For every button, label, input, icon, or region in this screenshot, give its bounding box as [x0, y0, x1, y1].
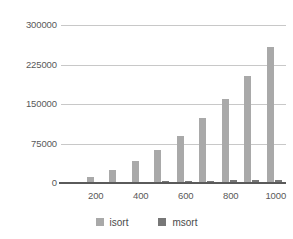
- bar-isort: [132, 161, 139, 183]
- y-axis-tick-label: 300000: [0, 20, 57, 30]
- plot-area: [61, 25, 286, 183]
- legend-swatch-icon: [158, 218, 166, 226]
- x-axis-tick-label: 200: [88, 190, 104, 202]
- bar-group: [132, 25, 152, 183]
- bar-group: [222, 25, 242, 183]
- legend-item-isort[interactable]: isort: [96, 217, 129, 228]
- legend-label: msort: [172, 217, 197, 228]
- bar-group: [267, 25, 287, 183]
- x-axis-line: [59, 182, 286, 184]
- bar-group: [109, 25, 129, 183]
- bar-group: [177, 25, 197, 183]
- bar-group: [154, 25, 174, 183]
- bar-chart: 300000225000150000750000 200400600800100…: [0, 0, 293, 239]
- bar-isort: [244, 76, 251, 183]
- y-axis-tick-label: 225000: [0, 60, 57, 70]
- x-axis-tick-label: 1000: [265, 190, 286, 202]
- bar-isort: [199, 118, 206, 183]
- legend-swatch-icon: [96, 218, 104, 226]
- y-axis-tick-label: 0: [0, 178, 57, 188]
- y-axis-tick-label: 150000: [0, 99, 57, 109]
- legend-item-msort[interactable]: msort: [158, 217, 197, 228]
- bar-group: [244, 25, 264, 183]
- x-axis-tick-label: 400: [133, 190, 149, 202]
- bar-group: [64, 25, 84, 183]
- y-axis-tick-label: 75000: [0, 139, 57, 149]
- bar-group: [199, 25, 219, 183]
- x-axis-tick-label: 600: [178, 190, 194, 202]
- bar-isort: [154, 150, 161, 183]
- chart-legend: isortmsort: [0, 214, 293, 230]
- legend-label: isort: [110, 217, 129, 228]
- x-axis-labels: 2004006008001000: [0, 190, 293, 204]
- bar-isort: [267, 47, 274, 183]
- bar-group: [87, 25, 107, 183]
- bar-isort: [177, 136, 184, 183]
- bar-isort: [222, 99, 229, 183]
- x-axis-tick-label: 800: [223, 190, 239, 202]
